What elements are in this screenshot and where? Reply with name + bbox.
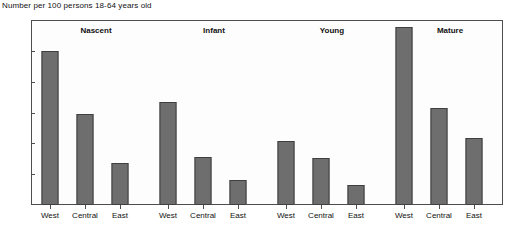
bar-chart: Number per 100 persons 18-64 years old 0… (0, 0, 507, 229)
x-axis-label-central: Central (308, 211, 334, 220)
y-axis-tick-mark (31, 82, 35, 83)
group-heading-infant: Infant (203, 26, 225, 35)
x-axis-tick-mark (50, 205, 51, 209)
bar (278, 141, 295, 205)
x-axis-tick-mark (203, 205, 204, 209)
bar (431, 108, 448, 205)
bar (313, 158, 330, 205)
x-axis-tick-mark (356, 205, 357, 209)
x-axis-tick-mark (439, 205, 440, 209)
x-axis-label-east: East (348, 211, 364, 220)
x-axis-tick-mark (321, 205, 322, 209)
x-axis-tick-mark (85, 205, 86, 209)
bar (230, 180, 247, 205)
x-axis-label-east: East (466, 211, 482, 220)
x-axis-label-central: Central (426, 211, 452, 220)
y-axis-tick-mark (31, 51, 35, 52)
bar (160, 102, 177, 205)
x-axis-label-west: West (395, 211, 413, 220)
x-axis-tick-mark (168, 205, 169, 209)
y-axis-tick-mark (31, 113, 35, 114)
bar (42, 51, 59, 205)
x-axis-label-central: Central (72, 211, 98, 220)
x-axis-tick-mark (238, 205, 239, 209)
x-axis-label-east: East (230, 211, 246, 220)
x-axis-tick-mark (286, 205, 287, 209)
x-axis-label-central: Central (190, 211, 216, 220)
group-heading-young: Young (320, 26, 344, 35)
group-heading-mature: Mature (437, 26, 463, 35)
x-axis-label-west: West (277, 211, 295, 220)
bar (466, 138, 483, 205)
x-axis-tick-mark (120, 205, 121, 209)
x-axis-label-east: East (112, 211, 128, 220)
x-axis-label-west: West (41, 211, 59, 220)
x-axis-label-west: West (159, 211, 177, 220)
x-axis-tick-mark (474, 205, 475, 209)
bar (195, 157, 212, 205)
x-axis-tick-mark (404, 205, 405, 209)
bar (112, 163, 129, 205)
group-heading-nascent: Nascent (80, 26, 111, 35)
bar (77, 114, 94, 205)
bar (348, 185, 365, 205)
y-axis: 0.001.002.003.004.005.006.00 (0, 0, 31, 229)
y-axis-tick-mark (31, 143, 35, 144)
bar (396, 27, 413, 205)
y-axis-tick-mark (31, 174, 35, 175)
